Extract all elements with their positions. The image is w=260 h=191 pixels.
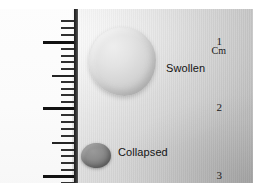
ruler-tick-mm <box>61 101 74 103</box>
ruler-tick-mm <box>61 55 74 57</box>
ruler-label-2: 2 <box>217 102 223 112</box>
ruler-tick-mm <box>61 81 74 83</box>
photo-margin-right <box>253 0 260 191</box>
ruler-tick-mm <box>61 149 74 151</box>
swollen-label: Swollen <box>166 62 205 74</box>
ruler-tick-cm <box>43 41 74 44</box>
ruler-unit-label: Cm <box>212 46 226 56</box>
ruler-tick-half <box>52 142 74 144</box>
ruler-tick-mm <box>61 68 74 70</box>
photo-margin-top <box>0 0 260 9</box>
photo-margin-bottom <box>0 183 260 191</box>
ruler-tick-mm <box>61 114 74 116</box>
ruler-label-3: 3 <box>217 170 223 180</box>
collapsed-label: Collapsed <box>118 146 168 158</box>
ruler-tick-mm <box>61 48 74 50</box>
ruler-tick-half <box>52 75 74 77</box>
ruler-tick-mm <box>61 155 74 157</box>
ruler-tick-cm <box>43 107 74 110</box>
ruler-tick-cm <box>43 175 74 178</box>
hydrogel-photograph: Swollen Collapsed 1Cm23 <box>0 0 260 191</box>
ruler-tick-mm <box>61 169 74 171</box>
collapsed-hydrogel-pellet <box>81 143 111 168</box>
swollen-hydrogel-disc <box>89 27 156 96</box>
ruler-tick-mm <box>61 34 74 36</box>
ruler-tick-mm <box>61 88 74 90</box>
ruler-tick-mm <box>61 121 74 123</box>
ruler-tick-mm <box>61 162 74 164</box>
ruler-tick-mm <box>61 27 74 29</box>
centimeter-ruler <box>30 8 78 184</box>
ruler-tick-mm <box>61 128 74 130</box>
ruler-tick-mm <box>61 20 74 22</box>
ruler-tick-mm <box>61 94 74 96</box>
ruler-spine <box>74 8 78 184</box>
ruler-tick-mm <box>61 61 74 63</box>
ruler-tick-mm <box>61 135 74 137</box>
